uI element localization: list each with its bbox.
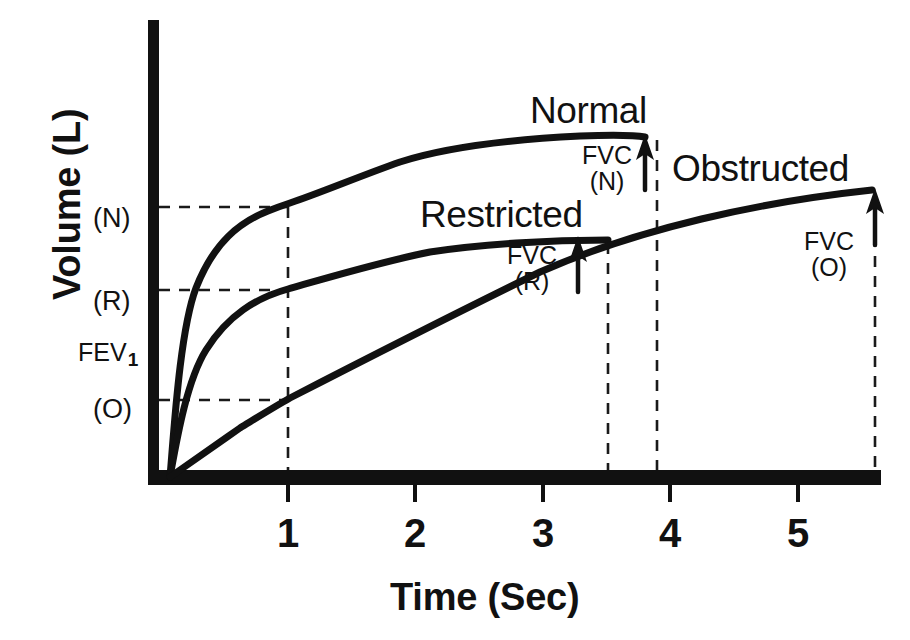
spirometry-volume-time-chart: Volume (L) Time (Sec) (N) (R) (O) FEV1 1… [0, 0, 910, 640]
chart-canvas [0, 0, 910, 640]
fvc-label-normal-line1: FVC [578, 142, 636, 168]
fvc-label-normal-line2: (N) [578, 168, 636, 194]
fvc-arrow-normal [636, 134, 654, 190]
fev1-subscript: 1 [128, 349, 139, 370]
x-axis-spine [148, 470, 881, 485]
fvc-label-obstructed-line1: FVC [800, 228, 858, 254]
x-tick-label-2: 2 [395, 513, 435, 553]
fvc-label-normal: FVC (N) [578, 142, 636, 194]
fvc-label-obstructed: FVC (O) [800, 228, 858, 280]
curve-label-restricted: Restricted [420, 196, 583, 233]
fvc-label-restricted-line1: FVC [503, 242, 561, 268]
curve-label-normal: Normal [530, 92, 647, 129]
fvc-label-obstructed-line2: (O) [800, 254, 858, 280]
curve-label-obstructed: Obstructed [672, 150, 849, 187]
y-tick-label-restricted: (R) [93, 288, 130, 315]
x-axis-title: Time (Sec) [390, 578, 580, 616]
x-tick-label-5: 5 [778, 513, 818, 553]
y-tick-label-obstructed: (O) [93, 396, 132, 423]
fvc-arrow-obstructed [866, 188, 884, 245]
fev1-text: FEV [78, 338, 127, 366]
fvc-arrow-restricted [569, 236, 587, 292]
fvc-label-restricted-line2: (R) [503, 268, 561, 294]
x-tick-label-1: 1 [268, 513, 308, 553]
y-axis-title: Volume (L) [48, 108, 86, 300]
x-tick-label-3: 3 [523, 513, 563, 553]
fev1-axis-label: FEV1 [78, 340, 137, 365]
y-axis-spine [148, 20, 159, 485]
y-tick-label-normal: (N) [93, 205, 130, 232]
x-tick-label-4: 4 [650, 513, 690, 553]
fvc-label-restricted: FVC (R) [503, 242, 561, 294]
x-axis-ticks [288, 485, 798, 502]
